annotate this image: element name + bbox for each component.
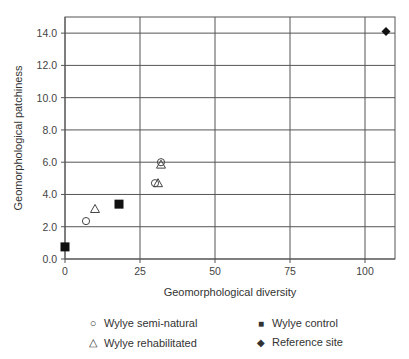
legend-item-semi-natural: ○ Wylye semi-natural — [86, 317, 197, 329]
triangle-marker — [91, 204, 100, 212]
x-tick-label: 25 — [134, 265, 146, 277]
x-tick-label: 75 — [284, 265, 296, 277]
diamond-icon: ◆ — [254, 337, 268, 348]
x-tick-label: 0 — [62, 265, 68, 277]
diamond-marker — [382, 27, 391, 36]
legend-label: Reference site — [272, 336, 343, 348]
legend-label: Wylye semi-natural — [104, 317, 197, 329]
scatter-chart: 0.02.04.06.08.010.012.014.00255075100 — [0, 0, 409, 300]
triangle-icon: △ — [86, 336, 100, 349]
y-tick-label: 6.0 — [42, 156, 57, 168]
y-tick-label: 8.0 — [42, 124, 57, 136]
legend-item-reference: ◆ Reference site — [254, 336, 343, 348]
y-tick-label: 10.0 — [37, 92, 58, 104]
y-tick-label: 14.0 — [37, 27, 58, 39]
x-tick-label: 50 — [209, 265, 221, 277]
legend-item-rehabilitated: △ Wylye rehabilitated — [86, 336, 197, 349]
square-marker — [61, 242, 70, 251]
square-icon: ■ — [254, 318, 268, 329]
square-marker — [115, 200, 124, 209]
plot-frame — [65, 17, 395, 259]
circle-icon: ○ — [86, 317, 100, 329]
y-tick-label: 2.0 — [42, 221, 57, 233]
circle-marker — [82, 217, 89, 224]
y-tick-label: 12.0 — [37, 59, 58, 71]
legend-label: Wylye rehabilitated — [104, 337, 197, 349]
x-tick-label: 100 — [356, 265, 374, 277]
legend-label: Wylye control — [272, 317, 338, 329]
y-tick-label: 4.0 — [42, 188, 57, 200]
legend-item-control: ■ Wylye control — [254, 317, 338, 329]
y-tick-label: 0.0 — [42, 253, 57, 265]
